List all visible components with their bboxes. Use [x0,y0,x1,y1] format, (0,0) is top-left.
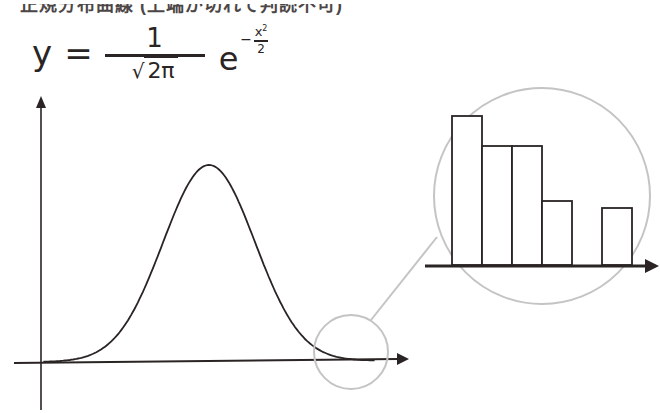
diagram-canvas [0,0,660,413]
histogram-bar [512,146,542,265]
magnifier-connector [371,237,437,320]
bell-curve [43,165,374,362]
magnified-histogram [452,116,632,265]
histogram-bar [542,201,572,265]
histogram-bar [452,116,482,265]
main-axes [14,96,409,410]
histogram-bar [482,146,512,265]
y-axis-arrow-icon [36,96,46,108]
x-axis-arrow-icon [397,353,409,365]
histogram-axis-arrow-icon [645,259,659,273]
histogram-bar [602,208,632,265]
